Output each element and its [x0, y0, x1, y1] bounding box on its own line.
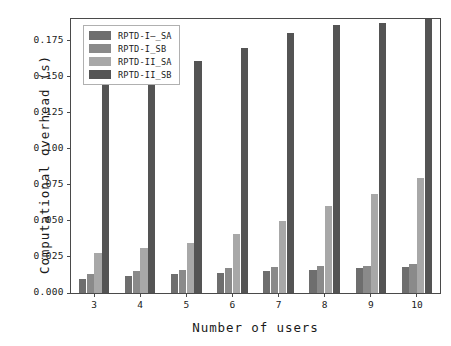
- x-tick-mark: [278, 293, 279, 297]
- y-tick-mark: [67, 184, 71, 185]
- y-tick-label: 0.125: [33, 106, 64, 117]
- bar-1-2: [140, 248, 147, 293]
- bar-2-1: [179, 270, 186, 293]
- legend-swatch: [89, 57, 111, 66]
- legend-label: RPTD-I_SB: [118, 44, 166, 54]
- bar-4-2: [279, 221, 286, 293]
- bar-1-1: [133, 271, 140, 293]
- bar-6-2: [371, 194, 378, 294]
- y-tick-mark: [67, 148, 71, 149]
- bar-0-2: [94, 253, 101, 293]
- x-axis-title: Number of users: [70, 320, 441, 335]
- bar-7-1: [409, 264, 416, 293]
- y-tick-label: 0.150: [33, 70, 64, 81]
- bar-2-2: [187, 243, 194, 293]
- bar-7-3: [425, 19, 432, 293]
- x-tick-mark: [94, 293, 95, 297]
- bar-1-0: [125, 276, 132, 293]
- legend-item: RPTD-II_SB: [89, 69, 172, 80]
- bar-5-0: [309, 270, 316, 293]
- x-tick-label: 10: [403, 299, 431, 310]
- x-tick-mark: [186, 293, 187, 297]
- bar-3-3: [241, 48, 248, 293]
- bar-3-1: [225, 268, 232, 293]
- x-tick-label: 5: [172, 299, 200, 310]
- legend-swatch: [89, 31, 111, 40]
- y-tick-mark: [67, 40, 71, 41]
- y-tick-label: 0.050: [33, 214, 64, 225]
- bar-4-1: [271, 267, 278, 293]
- x-tick-mark: [370, 293, 371, 297]
- bar-5-1: [317, 266, 324, 293]
- x-tick-label: 3: [80, 299, 108, 310]
- legend-item: RPTD-I_SB: [89, 43, 172, 54]
- x-tick-mark: [416, 293, 417, 297]
- y-tick-label: 0.025: [33, 250, 64, 261]
- y-tick-label: 0.000: [33, 286, 64, 297]
- bar-4-0: [263, 271, 270, 293]
- x-tick-label: 4: [126, 299, 154, 310]
- y-tick-mark: [67, 112, 71, 113]
- bar-7-0: [402, 267, 409, 293]
- bar-3-2: [233, 234, 240, 293]
- bar-2-3: [194, 61, 201, 293]
- x-tick-mark: [140, 293, 141, 297]
- y-tick-mark: [67, 256, 71, 257]
- y-tick-label: 0.175: [33, 34, 64, 45]
- y-tick-mark: [67, 76, 71, 77]
- bar-7-2: [417, 178, 424, 293]
- bar-1-3: [148, 74, 155, 293]
- y-tick-label: 0.075: [33, 178, 64, 189]
- chart-legend: RPTD-I—_SARPTD-I_SBRPTD-II_SARPTD-II_SB: [83, 25, 180, 85]
- bar-chart-figure: Computational overhead (s) Number of use…: [0, 0, 451, 346]
- bar-6-3: [379, 23, 386, 293]
- bar-4-3: [287, 33, 294, 293]
- legend-label: RPTD-II_SA: [118, 57, 172, 67]
- bar-0-3: [102, 77, 109, 293]
- x-tick-label: 8: [311, 299, 339, 310]
- plot-area: 0.0000.0250.0500.0750.1000.1250.1500.175…: [70, 18, 441, 294]
- bar-0-0: [79, 279, 86, 293]
- y-tick-label: 0.100: [33, 142, 64, 153]
- bar-5-3: [333, 25, 340, 293]
- y-tick-mark: [67, 220, 71, 221]
- bar-0-1: [87, 274, 94, 293]
- legend-item: RPTD-II_SA: [89, 56, 172, 67]
- x-tick-label: 7: [265, 299, 293, 310]
- bar-3-0: [217, 273, 224, 293]
- legend-item: RPTD-I—_SA: [89, 30, 172, 41]
- bar-5-2: [325, 206, 332, 293]
- legend-label: RPTD-II_SB: [118, 70, 172, 80]
- x-tick-label: 6: [218, 299, 246, 310]
- bar-6-1: [363, 266, 370, 293]
- bar-6-0: [356, 268, 363, 293]
- legend-swatch: [89, 44, 111, 53]
- legend-swatch: [89, 70, 111, 79]
- x-tick-mark: [324, 293, 325, 297]
- y-tick-mark: [67, 293, 71, 294]
- x-tick-label: 9: [357, 299, 385, 310]
- legend-label: RPTD-I—_SA: [118, 31, 172, 41]
- x-tick-mark: [232, 293, 233, 297]
- bar-2-0: [171, 274, 178, 293]
